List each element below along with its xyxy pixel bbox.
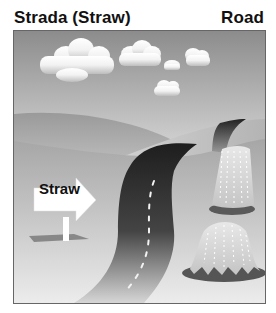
sign-label: Straw [39,180,80,197]
title-italian-word: Strada (Straw) [14,8,131,28]
illustration-frame [13,30,266,304]
sign-post [63,217,69,241]
cloud-small-1 [164,60,180,70]
title-english-word: Road [221,8,264,28]
